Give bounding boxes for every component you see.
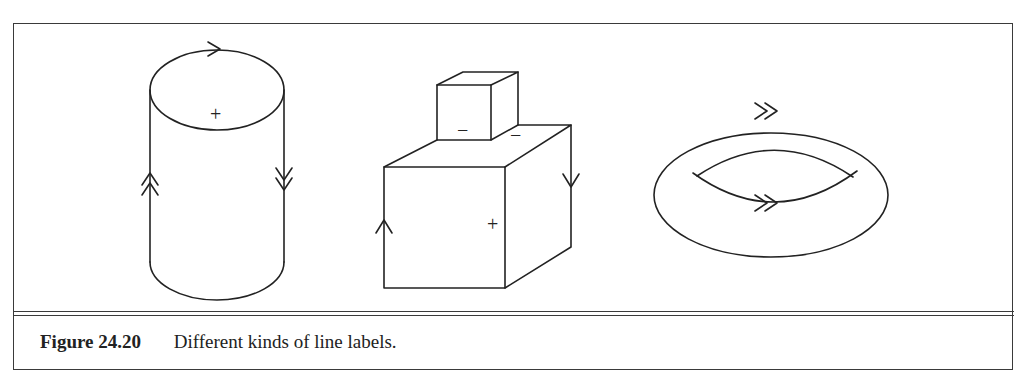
figure-caption: Figure 24.20 Different kinds of line lab… — [40, 331, 397, 353]
double-arrow-right-icon — [755, 195, 767, 211]
torus-inner-bottom-arc — [693, 171, 857, 202]
small-box-top — [437, 72, 518, 85]
big-box-plus-label: + — [487, 213, 498, 235]
caption-divider-bottom — [13, 315, 1014, 316]
torus-drawing — [654, 103, 888, 257]
cylinder-drawing: + — [142, 42, 292, 300]
big-box-side — [505, 125, 571, 288]
double-arrow-right-icon — [755, 103, 767, 119]
small-box-minus-label: − — [457, 119, 468, 141]
cylinder-bottom-arc — [150, 262, 284, 300]
torus-outer-ellipse — [654, 133, 888, 257]
caption-divider-top — [13, 311, 1014, 312]
arrow-right-icon — [208, 42, 220, 56]
figure-number: Figure 24.20 — [40, 331, 141, 352]
cylinder-plus-label: + — [210, 103, 221, 125]
figure-caption-text: Different kinds of line labels. — [174, 331, 397, 352]
stacked-boxes-drawing: − − + — [376, 72, 579, 288]
torus-inner-top-arc — [697, 150, 853, 177]
big-box-top-left-edge — [384, 140, 437, 167]
top-minus-label: − — [510, 124, 521, 146]
